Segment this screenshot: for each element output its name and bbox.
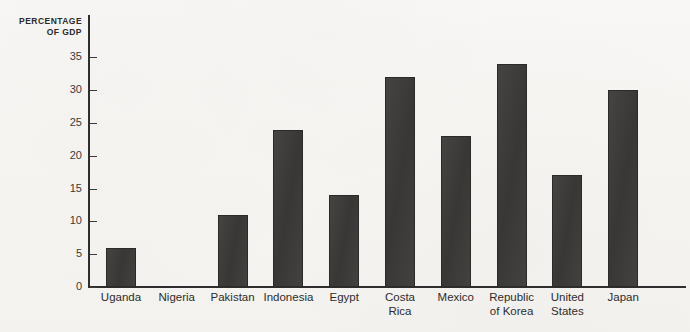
- y-axis-tick-mark: [90, 156, 97, 157]
- y-axis-tick-label: 15: [44, 182, 82, 194]
- bar-japan: [608, 90, 638, 287]
- bar-republic-of-korea: [497, 64, 527, 287]
- y-axis-tick-label: 35: [44, 50, 82, 62]
- y-axis-tick-mark: [90, 90, 97, 91]
- y-axis-tick-label: 25: [44, 116, 82, 128]
- bar-indonesia: [273, 130, 303, 287]
- x-axis-label-japan: Japan: [595, 291, 651, 305]
- x-axis-label-indonesia: Indonesia: [261, 291, 317, 305]
- y-axis-tick-label: 5: [44, 247, 82, 259]
- bar-costa-rica: [385, 77, 415, 287]
- x-axis-label-united-states: United States: [540, 291, 596, 318]
- y-axis-line: [88, 15, 90, 288]
- bar-mexico: [441, 136, 471, 287]
- x-axis-label-nigeria: Nigeria: [149, 291, 205, 305]
- x-axis-label-uganda: Uganda: [93, 291, 149, 305]
- y-axis-tick-label: 20: [44, 149, 82, 161]
- x-axis-label-mexico: Mexico: [428, 291, 484, 305]
- y-axis-title: PERCENTAGE OF GDP: [4, 16, 82, 38]
- bar-chart-figure: PERCENTAGE OF GDP 05101520253035 UgandaN…: [0, 0, 690, 332]
- y-axis-tick-label: 30: [44, 83, 82, 95]
- bar-united-states: [552, 175, 582, 287]
- y-axis-tick-label: 0: [44, 280, 82, 292]
- x-axis-label-republic-of-korea: Republic of Korea: [484, 291, 540, 318]
- bar-pakistan: [218, 215, 248, 287]
- y-axis-tick-mark: [90, 254, 97, 255]
- y-axis-tick-mark: [90, 189, 97, 190]
- y-axis-tick-label: 10: [44, 214, 82, 226]
- x-axis-label-egypt: Egypt: [316, 291, 372, 305]
- y-axis-tick-mark: [90, 57, 97, 58]
- y-axis-tick-mark: [90, 123, 97, 124]
- bar-egypt: [329, 195, 359, 287]
- bar-uganda: [106, 248, 136, 287]
- y-axis-tick-mark: [90, 287, 97, 288]
- x-axis-label-pakistan: Pakistan: [205, 291, 261, 305]
- y-axis-tick-mark: [90, 221, 97, 222]
- x-axis-label-costa-rica: Costa Rica: [372, 291, 428, 318]
